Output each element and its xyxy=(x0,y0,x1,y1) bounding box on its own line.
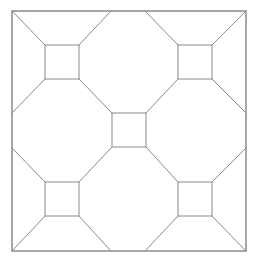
square-center xyxy=(112,113,146,147)
square-bottom-right xyxy=(178,182,212,216)
connector-line xyxy=(79,79,112,113)
connector-line xyxy=(146,79,178,113)
connector-line xyxy=(145,11,178,45)
square-bottom-left xyxy=(45,182,79,216)
connector-line xyxy=(79,11,111,45)
connector-line xyxy=(12,216,45,251)
outer-square xyxy=(12,11,246,251)
octagon-square-tiling-diagram xyxy=(0,0,256,260)
connector-line xyxy=(212,148,246,182)
connector-line xyxy=(212,216,246,251)
connector-line xyxy=(12,79,45,113)
connector-line xyxy=(145,216,178,251)
connector-line xyxy=(12,148,45,182)
connector-line xyxy=(79,147,112,182)
square-top-left xyxy=(45,45,79,79)
connector-line xyxy=(146,147,178,182)
square-top-right xyxy=(178,45,212,79)
connector-line xyxy=(212,11,246,45)
diagram-canvas xyxy=(0,0,256,260)
connector-line xyxy=(12,11,45,45)
connector-line xyxy=(212,79,246,113)
connector-line xyxy=(79,216,111,251)
